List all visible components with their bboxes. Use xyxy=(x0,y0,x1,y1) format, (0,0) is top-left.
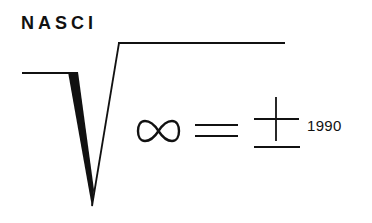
plus-minus-icon xyxy=(254,97,300,147)
infinity-icon xyxy=(138,121,179,141)
nasci-logo: NASCI 1990 xyxy=(0,0,372,223)
logo-year: 1990 xyxy=(307,117,342,134)
equals-icon xyxy=(195,125,238,136)
formula-graphic xyxy=(0,0,372,223)
